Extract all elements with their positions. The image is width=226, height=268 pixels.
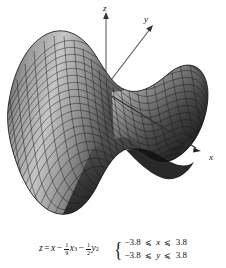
surface-svg: z y x	[0, 0, 226, 230]
surface-equation: z = x − 1 9 x 3 − 1 2 y 2	[39, 242, 99, 256]
constraint-y-lower: −3.8	[124, 250, 140, 260]
z-axis-arrowhead	[103, 12, 109, 19]
equation-lhs: z	[39, 244, 43, 254]
figure-caption: z = x − 1 9 x 3 − 1 2 y 2 { −3.8 ⩽	[0, 230, 226, 268]
constraint-x-variable: x	[156, 237, 160, 247]
equation-minus-1: −	[57, 244, 62, 254]
constraint-y: −3.8 ⩽ y ⩽ 3.8	[124, 250, 187, 261]
constraint-x-le-left: ⩽	[145, 238, 152, 247]
equation-equals: =	[44, 244, 49, 254]
equation-fraction-one-half: 1 2	[86, 242, 91, 256]
equation-minus-2: −	[79, 244, 84, 254]
y-axis-arrowhead	[146, 25, 153, 32]
y-axis-label: y	[143, 14, 148, 24]
constraint-y-le-right: ⩽	[164, 251, 171, 260]
equation-fraction-one-ninth: 1 9	[64, 242, 69, 256]
equation-term1: x	[51, 244, 55, 254]
surface-body	[0, 0, 226, 230]
constraint-y-variable: y	[156, 250, 160, 260]
x-axis-arrowhead	[193, 147, 201, 152]
fraction-denominator: 2	[86, 249, 91, 257]
constraints-lines: −3.8 ⩽ x ⩽ 3.8 −3.8 ⩽ y ⩽ 3.8	[124, 237, 187, 261]
z-axis-label: z	[102, 3, 107, 13]
constraint-x-le-right: ⩽	[164, 238, 171, 247]
y-axis-line	[108, 29, 150, 84]
x-axis-label: x	[208, 152, 213, 162]
constraint-y-upper: 3.8	[176, 250, 187, 260]
constraint-y-le-left: ⩽	[145, 251, 152, 260]
constraints-brace: {	[114, 240, 122, 259]
constraint-x: −3.8 ⩽ x ⩽ 3.8	[124, 237, 187, 248]
fraction-denominator: 9	[64, 249, 69, 257]
constraint-x-upper: 3.8	[176, 237, 187, 247]
constraint-x-lower: −3.8	[124, 237, 140, 247]
domain-constraints: { −3.8 ⩽ x ⩽ 3.8 −3.8 ⩽ y ⩽ 3.8	[113, 237, 187, 261]
plot-area: z y x	[0, 0, 226, 230]
surface-plot-figure: z y x z = x − 1 9 x 3 − 1 2 y 2 {	[0, 0, 226, 268]
